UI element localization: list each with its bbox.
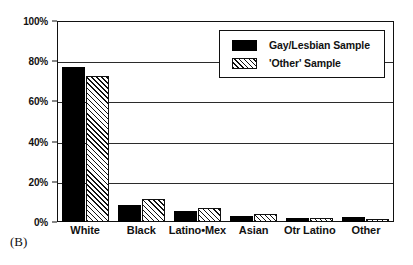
x-tick-label: Other (351, 224, 380, 236)
bar (310, 218, 333, 222)
bar (286, 218, 309, 222)
bar (86, 76, 109, 222)
y-tick-label: 80% (29, 56, 48, 67)
bar (230, 216, 253, 222)
x-tick-label: White (70, 224, 99, 236)
bar (254, 214, 277, 222)
y-axis: 0%20%40%60%80%100% (0, 0, 57, 232)
legend-label: 'Other' Sample (269, 57, 341, 69)
y-tick-label: 0% (34, 217, 48, 228)
y-tick-label: 100% (23, 16, 48, 27)
legend-label: Gay/Lesbian Sample (269, 39, 370, 51)
bar-group (62, 21, 109, 222)
bar-group (174, 21, 221, 222)
y-tick-label: 60% (29, 96, 48, 107)
bar (174, 211, 197, 222)
bar (366, 219, 389, 222)
bar (118, 205, 141, 222)
legend-swatch-hatch-icon (232, 58, 257, 69)
x-tick-label: Black (127, 224, 156, 236)
legend-swatch-solid-icon (232, 40, 257, 51)
x-axis: WhiteBlackLatino•MexAsianOtr LatinoOther (57, 224, 394, 246)
legend-item: 'Other' Sample (220, 54, 384, 72)
legend-item: Gay/Lesbian Sample (220, 36, 384, 54)
chart-legend: Gay/Lesbian Sample 'Other' Sample (219, 30, 385, 78)
bar-group (118, 21, 165, 222)
bar-chart-figure: 0%20%40%60%80%100% WhiteBlackLatino•MexA… (0, 0, 413, 265)
bar (142, 199, 165, 222)
bar (342, 217, 365, 222)
bar (62, 67, 85, 222)
x-tick-label: Otr Latino (284, 224, 336, 236)
x-tick-label: Asian (239, 224, 268, 236)
y-tick-label: 40% (29, 136, 48, 147)
panel-label: (B) (10, 234, 27, 250)
x-tick-label: Latino•Mex (169, 224, 226, 236)
bar (198, 208, 221, 222)
y-tick-label: 20% (29, 176, 48, 187)
